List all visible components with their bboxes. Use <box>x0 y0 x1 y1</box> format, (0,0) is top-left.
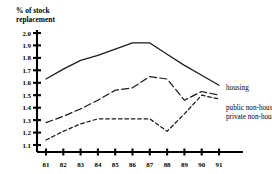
x-tick-label: 83 <box>77 161 84 168</box>
x-tick-label: 82 <box>60 161 67 168</box>
x-tick-label: 91 <box>216 161 223 168</box>
y-tick-label: 1.9 <box>22 42 31 49</box>
series-label-public-non-housing: public non-housing <box>226 104 272 112</box>
series-label-private-non-housing: private non-housing <box>226 113 272 121</box>
x-tick-label: 88 <box>164 161 171 168</box>
series-label-housing: housing <box>226 84 249 92</box>
y-tick-label: 1.5 <box>22 92 31 99</box>
x-tick-label: 90 <box>198 161 205 168</box>
y-tick-label: 1.2 <box>22 129 31 136</box>
x-tick-label: 84 <box>94 161 101 168</box>
y-tick-label: 1.6 <box>22 79 31 86</box>
x-tick-label: 87 <box>146 161 153 168</box>
x-tick-label: 85 <box>112 161 119 168</box>
y-tick-label: 1.3 <box>22 117 31 124</box>
line-chart: % of stock replacement 2.0 1.9 1.8 1.7 <box>0 0 272 174</box>
y-tick-label: 1.8 <box>22 54 31 61</box>
chart-container: % of stock replacement 2.0 1.9 1.8 1.7 <box>0 0 272 174</box>
x-tick-label: 86 <box>129 161 136 168</box>
y-tick-label: 1.7 <box>22 67 31 74</box>
y-tick-label: 2.0 <box>22 30 31 37</box>
chart-title-line-2: replacement <box>16 15 55 24</box>
chart-title-line-1: % of stock <box>16 6 51 15</box>
y-tick-label: 1.4 <box>22 104 31 111</box>
x-tick-label: 89 <box>181 161 188 168</box>
x-tick-label: 81 <box>43 161 50 168</box>
y-tick-label: 1.1 <box>22 142 31 149</box>
